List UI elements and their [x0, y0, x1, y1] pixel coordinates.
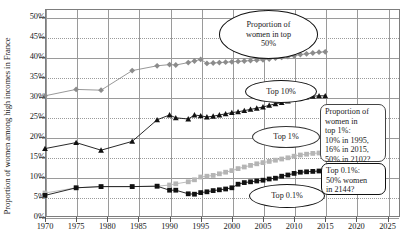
series-marker: [267, 177, 272, 182]
x-axis-tick-mark: [232, 217, 233, 222]
series-marker: [248, 163, 253, 168]
series-marker: [298, 153, 303, 158]
series-marker: [273, 158, 278, 163]
y-axis-tick-mark: [39, 117, 45, 118]
series-marker: [229, 185, 234, 190]
series-marker: [223, 59, 229, 65]
series-marker: [204, 61, 210, 67]
series-marker: [73, 87, 79, 93]
series-marker: [99, 184, 104, 189]
y-axis-tick-mark: [39, 77, 45, 78]
series-marker: [217, 171, 222, 176]
chart-container: Proportion of women among high incomes i…: [0, 0, 409, 240]
series-marker: [286, 155, 291, 160]
series-marker: [261, 160, 266, 165]
series-marker: [154, 63, 160, 69]
x-axis-tick-mark: [170, 217, 171, 222]
series-marker: [279, 157, 284, 162]
series-marker: [310, 50, 316, 56]
y-axis-tick-mark: [39, 97, 45, 98]
annotation-top01-text: Top 0.1%: [271, 191, 303, 200]
series-marker: [217, 187, 222, 192]
series-marker: [173, 181, 178, 186]
series-marker: [273, 176, 278, 181]
series-marker: [167, 188, 172, 193]
series-marker: [242, 165, 247, 170]
series-marker: [198, 175, 203, 180]
series-marker: [292, 154, 297, 159]
series-marker: [130, 184, 135, 189]
annotation-top10-text: Top 10%: [266, 87, 296, 96]
series-marker: [223, 170, 228, 175]
series-marker: [310, 151, 315, 156]
series-marker: [304, 51, 310, 57]
y-axis-tick-mark: [39, 137, 45, 138]
series-marker: [298, 170, 303, 175]
series-marker: [316, 49, 322, 55]
annotation-top1-box: Proportion of women in top 1%: 10% in 19…: [320, 104, 386, 162]
series-marker: [167, 183, 172, 188]
x-axis-tick-mark: [138, 217, 139, 222]
series-marker: [205, 174, 210, 179]
series-marker: [310, 169, 315, 174]
series-marker: [248, 179, 253, 184]
x-axis-tick-mark: [45, 217, 46, 222]
y-axis-tick-mark: [39, 157, 45, 158]
series-marker: [198, 57, 204, 63]
annotation-top01-box: Top 0.1%: 50% women in 2144?: [321, 163, 386, 195]
series-marker: [185, 60, 191, 66]
series-marker: [223, 187, 228, 192]
x-axis-tick-mark: [356, 217, 357, 222]
series-marker: [155, 184, 160, 189]
annotation-top1-callout: Top 1%: [252, 126, 320, 148]
series-marker: [267, 159, 272, 164]
gridline-horizontal: [46, 218, 399, 219]
y-axis-tick-mark: [39, 17, 45, 18]
series-marker: [236, 166, 241, 171]
series-marker: [241, 58, 247, 64]
annotation-top50-callout: Proportion of women in top 50%: [219, 10, 318, 59]
y-axis-tick-mark: [39, 37, 45, 38]
series-marker: [205, 189, 210, 194]
y-axis-tick-mark: [39, 197, 45, 198]
series-marker: [279, 174, 284, 179]
x-axis-tick-mark: [107, 217, 108, 222]
x-axis-tick-label: 2025: [368, 222, 408, 231]
series-marker: [98, 87, 104, 93]
series-marker: [216, 60, 222, 66]
x-axis-tick-mark: [294, 217, 295, 222]
series-marker: [304, 169, 309, 174]
series-marker: [192, 192, 197, 197]
series-marker: [74, 185, 79, 190]
series-marker: [129, 68, 135, 74]
y-axis-title: Proportion of women among high incomes i…: [0, 6, 14, 240]
series-marker: [254, 161, 259, 166]
annotation-top10-callout: Top 10%: [245, 80, 317, 103]
x-axis-tick-mark: [325, 217, 326, 222]
x-axis-tick-mark: [263, 217, 264, 222]
series-marker: [173, 62, 179, 68]
series-marker: [173, 188, 178, 193]
series-marker: [211, 188, 216, 193]
series-marker: [254, 179, 259, 184]
series-marker: [322, 49, 328, 55]
series-marker: [229, 168, 234, 173]
series-marker: [192, 177, 197, 182]
series-marker: [167, 112, 173, 117]
series-marker: [286, 173, 291, 178]
series-marker: [192, 112, 198, 117]
series-marker: [248, 58, 254, 64]
series-marker: [229, 59, 235, 65]
series-marker: [192, 58, 198, 64]
series-marker: [73, 140, 79, 145]
series-marker: [236, 182, 241, 187]
x-axis-tick-mark: [388, 217, 389, 222]
y-axis-tick-mark: [39, 57, 45, 58]
series-marker: [154, 117, 160, 122]
annotation-top1-text: Top 1%: [273, 132, 299, 141]
annotation-top01-callout: Top 0.1%: [249, 184, 325, 208]
series-marker: [198, 190, 203, 195]
series-marker: [167, 62, 173, 68]
series-marker: [186, 191, 191, 196]
series-marker: [261, 178, 266, 183]
